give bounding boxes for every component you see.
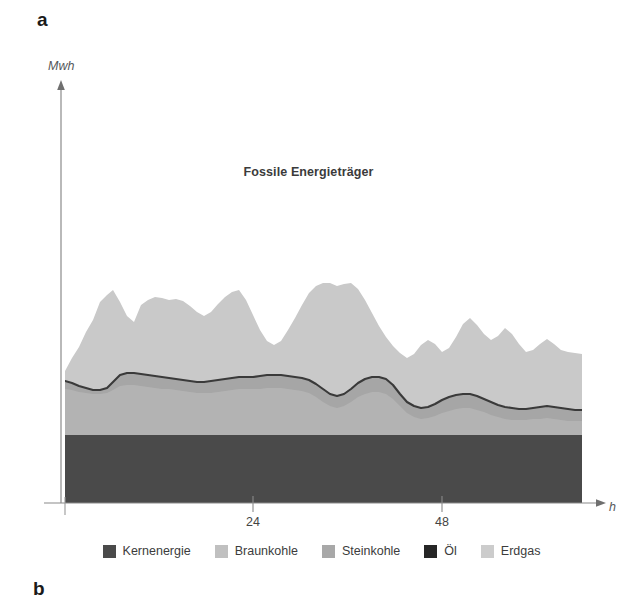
legend-item-braunkohle[interactable]: Braunkohle xyxy=(215,544,298,558)
legend-swatch-icon xyxy=(424,545,437,558)
panel-label-b: b xyxy=(33,578,45,600)
area-base-dark xyxy=(65,435,582,503)
legend-item-kernenergie[interactable]: Kernenergie xyxy=(103,544,191,558)
legend-label: Öl xyxy=(444,544,457,558)
y-axis-arrowhead xyxy=(57,80,65,90)
x-axis-arrowhead xyxy=(596,499,606,507)
x-tick-label-24: 24 xyxy=(233,515,273,529)
legend-swatch-icon xyxy=(103,545,116,558)
legend-item-erdgas[interactable]: Erdgas xyxy=(481,544,541,558)
legend-swatch-icon xyxy=(215,545,228,558)
legend-label: Kernenergie xyxy=(123,544,191,558)
stacked-area-chart xyxy=(0,0,643,607)
legend-item-steinkohle[interactable]: Steinkohle xyxy=(322,544,400,558)
legend-label: Braunkohle xyxy=(235,544,298,558)
chart-title-text: Fossile Energieträger xyxy=(244,165,374,179)
legend-label: Erdgas xyxy=(501,544,541,558)
legend-swatch-icon xyxy=(322,545,335,558)
legend-label: Steinkohle xyxy=(342,544,400,558)
chart-legend: Kernenergie Braunkohle Steinkohle Öl Erd… xyxy=(0,544,643,558)
figure-panel-a: a Mwh h xyxy=(0,0,643,607)
chart-title: Fossile Energieträger xyxy=(0,165,643,179)
legend-swatch-icon xyxy=(481,545,494,558)
x-tick-label-48: 48 xyxy=(422,515,462,529)
legend-item-oel[interactable]: Öl xyxy=(424,544,457,558)
